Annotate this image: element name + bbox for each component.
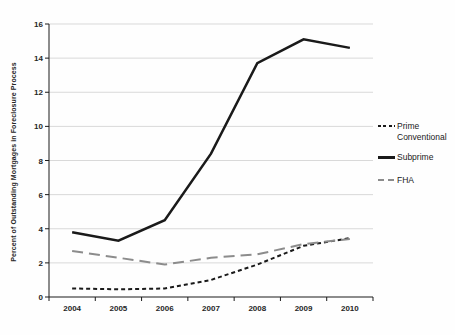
series-line-subprime bbox=[72, 39, 350, 240]
y-tick-label: 0 bbox=[39, 293, 44, 302]
series-line-fha bbox=[72, 239, 350, 265]
x-tick-label: 2009 bbox=[295, 304, 313, 313]
y-tick-label: 10 bbox=[34, 122, 43, 131]
fha-line-swatch-icon bbox=[378, 179, 395, 181]
y-tick-label: 14 bbox=[34, 54, 43, 63]
legend-label-prime-conventional: Prime Conventional bbox=[397, 121, 453, 144]
y-axis-title: Percent of Outstanding Mortgages in Fore… bbox=[10, 62, 17, 262]
x-tick-label: 2008 bbox=[248, 304, 266, 313]
x-tick-label: 2005 bbox=[110, 304, 128, 313]
plot-area: 0246810121416200420052006200720082009201… bbox=[0, 0, 455, 335]
subprime-line-swatch-icon bbox=[378, 156, 395, 159]
y-tick-label: 12 bbox=[34, 88, 43, 97]
y-tick-label: 8 bbox=[39, 157, 44, 166]
legend-item-prime-conventional: Prime Conventional bbox=[378, 121, 453, 144]
series-line-prime-conventional bbox=[72, 238, 350, 289]
legend-label-fha: FHA bbox=[397, 175, 414, 186]
prime-conventional-line-swatch-icon bbox=[378, 125, 395, 127]
y-tick-label: 4 bbox=[39, 225, 44, 234]
y-tick-label: 6 bbox=[39, 191, 44, 200]
legend-label-subprime: Subprime bbox=[397, 152, 433, 163]
foreclosure-line-chart: 0246810121416200420052006200720082009201… bbox=[0, 0, 455, 335]
x-tick-label: 2007 bbox=[202, 304, 220, 313]
x-tick-label: 2004 bbox=[63, 304, 81, 313]
y-tick-label: 16 bbox=[34, 20, 43, 29]
x-tick-label: 2010 bbox=[341, 304, 359, 313]
legend-item-fha: FHA bbox=[378, 175, 414, 186]
legend-item-subprime: Subprime bbox=[378, 152, 433, 163]
x-tick-label: 2006 bbox=[156, 304, 174, 313]
y-tick-label: 2 bbox=[39, 259, 44, 268]
